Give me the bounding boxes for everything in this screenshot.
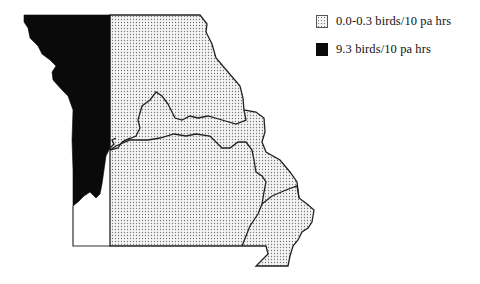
high-density-region bbox=[24, 15, 110, 206]
legend: 0.0-0.3 birds/10 pa hrs 9.3 birds/10 pa … bbox=[316, 13, 451, 69]
legend-label: 9.3 birds/10 pa hrs bbox=[336, 42, 431, 57]
solid-swatch-icon bbox=[316, 43, 328, 56]
southwest-edge bbox=[73, 206, 110, 246]
dotted-swatch-icon bbox=[316, 15, 328, 28]
legend-label: 0.0-0.3 birds/10 pa hrs bbox=[336, 14, 451, 29]
legend-item-low: 0.0-0.3 birds/10 pa hrs bbox=[316, 13, 451, 29]
legend-item-high: 9.3 birds/10 pa hrs bbox=[316, 41, 451, 57]
